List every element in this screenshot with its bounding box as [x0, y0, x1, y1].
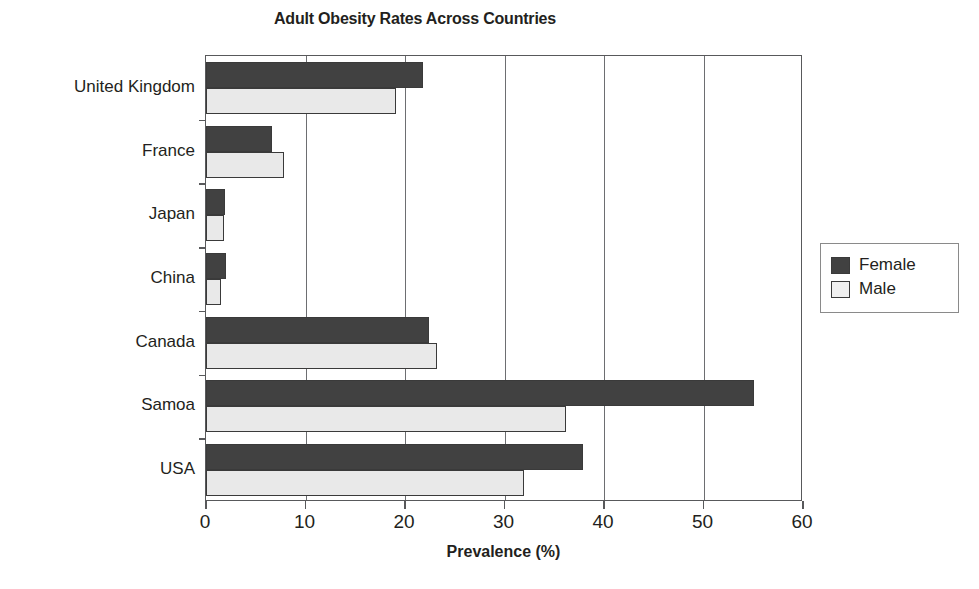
y-axis-label-canada: Canada: [5, 332, 195, 352]
x-axis-tick-label-0: 0: [200, 511, 211, 533]
bar-group: [206, 253, 801, 305]
x-axis-tick: [205, 501, 207, 509]
bar-united-kingdom-female: [206, 62, 423, 88]
x-axis-tick: [703, 501, 705, 509]
bar-usa-male: [206, 470, 524, 496]
legend-item-male[interactable]: Male: [831, 277, 948, 301]
y-axis-label-samoa: Samoa: [5, 395, 195, 415]
bar-japan-female: [206, 189, 225, 215]
bar-group: [206, 444, 801, 496]
bar-united-kingdom-male: [206, 88, 396, 114]
y-axis-label-japan: Japan: [5, 204, 195, 224]
x-axis-tick: [603, 501, 605, 509]
y-axis-label-group: United KingdomFranceJapanChinaCanadaSamo…: [0, 55, 195, 501]
y-axis-tick: [199, 311, 206, 313]
plot-area: [205, 55, 802, 501]
x-axis-tick-label-10: 10: [294, 511, 315, 533]
y-axis-tick: [199, 247, 206, 249]
bar-china-female: [206, 253, 226, 279]
legend-swatch-male-icon: [831, 281, 850, 298]
legend-label-female: Female: [859, 255, 916, 275]
bar-china-male: [206, 279, 221, 305]
x-axis-tick-label-50: 50: [692, 511, 713, 533]
y-axis-tick: [199, 120, 206, 122]
legend-item-female[interactable]: Female: [831, 253, 948, 277]
bar-group: [206, 62, 801, 114]
x-axis-tick: [504, 501, 506, 509]
bar-group: [206, 380, 801, 432]
x-axis-tick-label-20: 20: [393, 511, 414, 533]
y-axis-label-china: China: [5, 268, 195, 288]
bar-samoa-female: [206, 380, 754, 406]
y-axis-label-usa: USA: [5, 459, 195, 479]
bar-france-male: [206, 152, 284, 178]
x-axis-title: Prevalence (%): [205, 543, 802, 561]
y-axis-label-united-kingdom: United Kingdom: [5, 77, 195, 97]
legend-label-male: Male: [859, 279, 896, 299]
y-axis-tick: [199, 183, 206, 185]
x-axis-tick-label-30: 30: [493, 511, 514, 533]
y-axis-tick: [199, 438, 206, 440]
bar-japan-male: [206, 215, 224, 241]
bar-samoa-male: [206, 406, 566, 432]
x-axis-tick: [305, 501, 307, 509]
bar-group: [206, 126, 801, 178]
bar-chart-figure: Adult Obesity Rates Across Countries Uni…: [0, 0, 979, 589]
x-axis-tick: [404, 501, 406, 509]
x-axis-tick: [802, 501, 804, 509]
x-axis-tick-label-40: 40: [592, 511, 613, 533]
bar-group: [206, 189, 801, 241]
bar-canada-female: [206, 317, 429, 343]
bar-group: [206, 317, 801, 369]
legend-swatch-female-icon: [831, 257, 850, 274]
bar-usa-female: [206, 444, 583, 470]
bar-france-female: [206, 126, 272, 152]
bar-canada-male: [206, 343, 437, 369]
chart-legend: FemaleMale: [820, 243, 959, 313]
y-axis-tick: [199, 375, 206, 377]
x-axis-tick-label-60: 60: [791, 511, 812, 533]
chart-title: Adult Obesity Rates Across Countries: [0, 10, 830, 28]
y-axis-label-france: France: [5, 141, 195, 161]
